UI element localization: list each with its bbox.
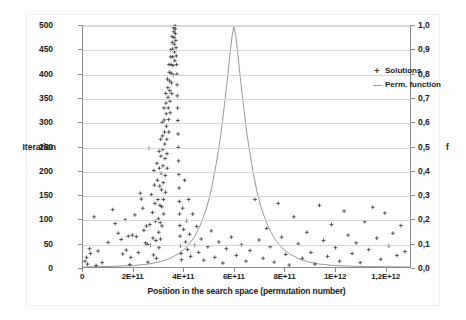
y-axis-tick-label: 400 — [0, 69, 53, 79]
x-axis-tick-mark — [82, 268, 83, 272]
x-axis-tick-mark — [386, 268, 387, 272]
y-axis-tick-label: 0 — [0, 263, 53, 273]
x-axis-tick-mark — [183, 268, 184, 272]
gridline — [83, 245, 410, 246]
secondary-y-axis-tick-label: 0,9 — [418, 44, 464, 54]
gridline — [83, 123, 410, 124]
x-axis-tick-mark — [284, 268, 285, 272]
secondary-y-axis-tick-mark — [411, 244, 415, 245]
gridline — [83, 220, 410, 221]
y-axis-tick-label: 150 — [0, 190, 53, 200]
y-axis-tick-label: 300 — [0, 117, 53, 127]
y-axis-tick-label: 50 — [0, 239, 53, 249]
legend-label-perm-function: Perm. function — [385, 78, 441, 92]
y-axis-tick-label: 250 — [0, 142, 53, 152]
secondary-y-axis-tick-mark — [411, 98, 415, 99]
plot-area: + Solutions Perm. function — [82, 25, 411, 268]
gridline — [83, 75, 410, 76]
x-axis-tick-mark — [133, 268, 134, 272]
gridline — [83, 196, 410, 197]
x-axis-tick-label: 1,2E+12 — [356, 272, 416, 281]
data-layer — [83, 26, 410, 267]
y-axis-tick-label: 200 — [0, 166, 53, 176]
secondary-y-axis-tick-mark — [411, 195, 415, 196]
secondary-y-axis-tick-label: 0,8 — [418, 69, 464, 79]
gridline — [83, 148, 410, 149]
secondary-y-axis-tick-label: 0,3 — [418, 190, 464, 200]
y-axis-tick-mark — [78, 219, 82, 220]
y-axis-tick-mark — [78, 49, 82, 50]
secondary-y-axis-tick-mark — [411, 171, 415, 172]
x-axis-tick-mark — [234, 268, 235, 272]
x-axis-tick-mark — [335, 268, 336, 272]
x-axis-title: Position in the search space (permutatio… — [82, 286, 411, 296]
secondary-y-axis-tick-mark — [411, 219, 415, 220]
y-axis-tick-mark — [78, 25, 82, 26]
y-axis-tick-mark — [78, 98, 82, 99]
secondary-y-axis-tick-label: 1,0 — [418, 20, 464, 30]
y-axis-tick-mark — [78, 195, 82, 196]
secondary-y-axis-tick-mark — [411, 25, 415, 26]
gridline — [83, 26, 410, 27]
secondary-y-axis-tick-mark — [411, 74, 415, 75]
gridline — [83, 99, 410, 100]
perm-function-curve — [83, 26, 410, 267]
y-axis-tick-label: 500 — [0, 20, 53, 30]
y-axis-tick-label: 450 — [0, 44, 53, 54]
y-axis-tick-mark — [78, 171, 82, 172]
secondary-y-axis-tick-label: 0,5 — [418, 142, 464, 152]
gridline — [83, 50, 410, 51]
solutions-scatter — [83, 24, 407, 267]
secondary-y-axis-tick-label: 0,1 — [418, 239, 464, 249]
y-axis-tick-label: 350 — [0, 93, 53, 103]
gridline — [83, 172, 410, 173]
secondary-y-axis-tick-label: 0,6 — [418, 117, 464, 127]
y-axis-tick-mark — [78, 147, 82, 148]
chart-figure: Iteration f Position in the search space… — [0, 0, 466, 320]
y-axis-tick-label: 100 — [0, 214, 53, 224]
legend-item-perm-function: Perm. function — [369, 78, 466, 92]
secondary-y-axis-tick-label: 0,4 — [418, 166, 464, 176]
secondary-y-axis-tick-mark — [411, 122, 415, 123]
y-axis-tick-mark — [78, 74, 82, 75]
secondary-y-axis-tick-mark — [411, 49, 415, 50]
secondary-y-axis-tick-mark — [411, 147, 415, 148]
y-axis-tick-mark — [78, 244, 82, 245]
secondary-y-axis-tick-label: 0,0 — [418, 263, 464, 273]
line-marker-icon — [369, 81, 385, 90]
secondary-y-axis-tick-label: 0,7 — [418, 93, 464, 103]
secondary-y-axis-tick-mark — [411, 268, 415, 269]
y-axis-tick-mark — [78, 122, 82, 123]
secondary-y-axis-tick-label: 0,2 — [418, 214, 464, 224]
legend-label-solutions: Solutions — [385, 64, 421, 78]
